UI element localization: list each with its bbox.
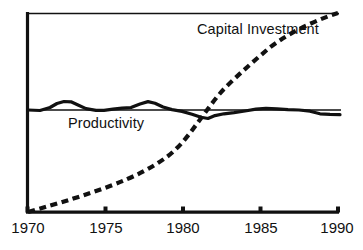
x-tick-label-1970: 1970 xyxy=(11,220,44,235)
x-tick-label-1985: 1985 xyxy=(244,220,277,235)
x-tick-label-1975: 1975 xyxy=(89,220,122,235)
annotation-capital-investment: Capital Investment xyxy=(197,22,319,37)
annotation-productivity: Productivity xyxy=(68,116,144,131)
chart-plot-area xyxy=(0,0,363,250)
chart-figure: Capital Investment Productivity 1970 197… xyxy=(0,0,363,250)
x-tick-label-1980: 1980 xyxy=(166,220,199,235)
x-tick-label-1990: 1990 xyxy=(320,220,353,235)
